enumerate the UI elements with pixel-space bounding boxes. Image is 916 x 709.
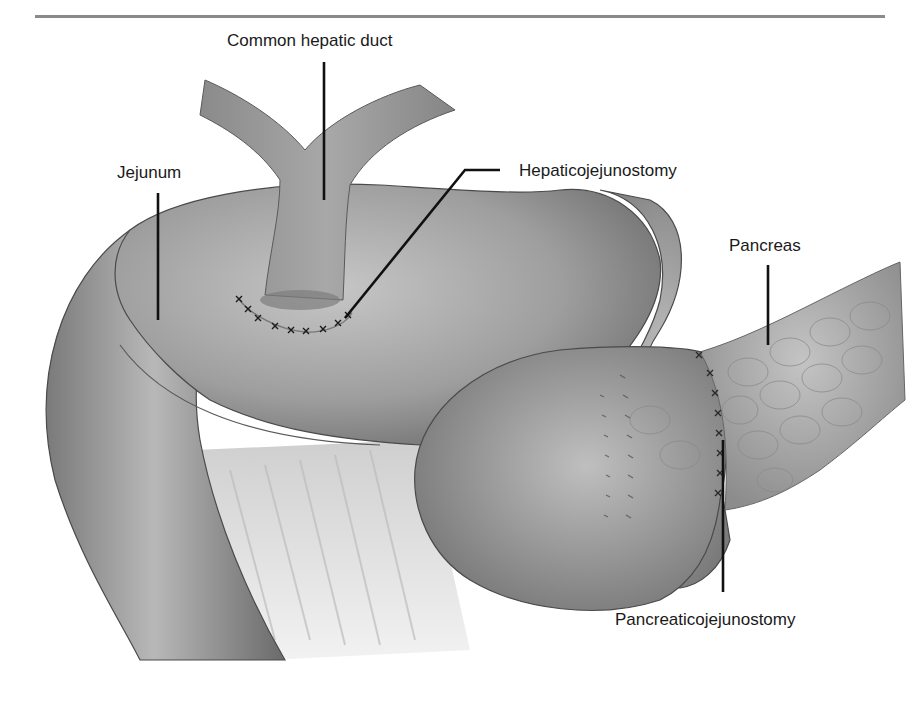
label-hepaticojejunostomy: Hepaticojejunostomy: [519, 161, 677, 181]
label-pancreas: Pancreas: [729, 236, 801, 256]
surgical-illustration: [0, 0, 916, 709]
label-pancreaticojejunostomy: Pancreaticojejunostomy: [615, 610, 795, 630]
label-common-hepatic-duct: Common hepatic duct: [227, 31, 392, 51]
label-jejunum: Jejunum: [117, 163, 181, 183]
